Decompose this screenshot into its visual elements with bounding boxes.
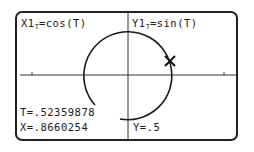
equation-x-label: X1T=cos(T)	[21, 18, 87, 31]
trace-t-value: T=.52359878	[20, 107, 95, 118]
trace-x-value: X=.8660254	[20, 122, 88, 133]
trace-y-value: Y=.5	[133, 122, 160, 133]
equation-y-label: Y1T=sin(T)	[132, 18, 198, 31]
